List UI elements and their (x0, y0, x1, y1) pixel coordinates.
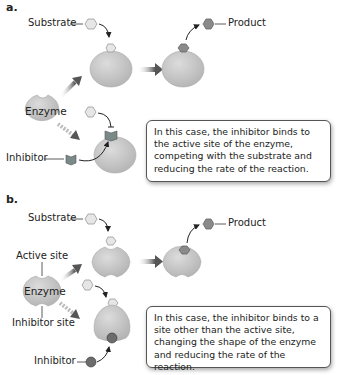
inhibitor-label: Inhibitor (34, 355, 76, 366)
product-label: Product (228, 17, 266, 28)
enzyme-shape (162, 51, 204, 87)
product-hexagon (203, 19, 214, 29)
enzyme-label: Enzyme (25, 105, 67, 117)
enzyme-shape (90, 51, 132, 87)
substrate-label: Substrate (28, 212, 76, 223)
substrate-hexagon (85, 214, 97, 224)
callout-noncompetitive: In this case, the inhibitor binds to a s… (146, 306, 331, 368)
inhibitor-label: Inhibitor (6, 152, 48, 163)
callout-competitive: In this case, the inhibitor binds to the… (146, 120, 331, 182)
product-label: Product (228, 217, 266, 228)
inhibitor-shape (86, 357, 96, 367)
enzyme-label: Enzyme (24, 285, 66, 297)
inhibitor-shape (66, 155, 76, 165)
enzyme-shape (92, 247, 130, 277)
active-site-label: Active site (16, 250, 68, 261)
product-hexagon (203, 219, 214, 229)
substrate-hexagon (85, 19, 97, 29)
inhibitor-bound (107, 333, 117, 343)
panel-b-label: b. (6, 193, 18, 206)
panel-a-label: a. (6, 1, 18, 14)
inhibitor-site-label: Inhibitor site (12, 317, 75, 328)
substrate-label: Substrate (28, 17, 76, 28)
